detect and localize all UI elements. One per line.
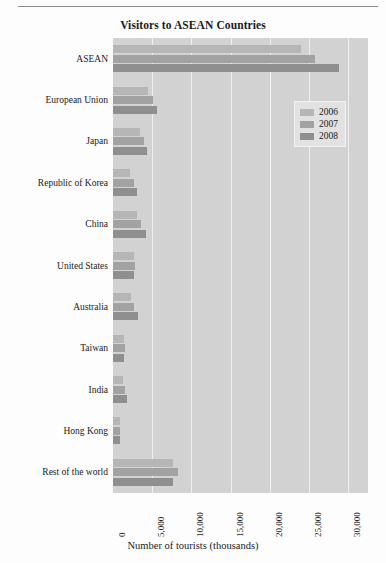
bar-group bbox=[113, 417, 368, 444]
legend-swatch-icon bbox=[300, 109, 314, 116]
legend-label: 2007 bbox=[319, 118, 338, 130]
category-label: Taiwan bbox=[0, 343, 108, 353]
bar bbox=[113, 45, 301, 53]
bar bbox=[113, 106, 157, 114]
bar bbox=[113, 220, 141, 228]
x-tick-label: 30,000 bbox=[352, 512, 362, 537]
bar bbox=[113, 303, 134, 311]
category-label: European Union bbox=[0, 95, 108, 105]
x-tick-label: 10,000 bbox=[195, 512, 205, 537]
x-tick-label: 20,000 bbox=[274, 512, 284, 537]
category-label: India bbox=[0, 385, 108, 395]
bar bbox=[113, 417, 120, 425]
bar-group bbox=[113, 459, 368, 486]
bar-group bbox=[113, 252, 368, 279]
legend-label: 2008 bbox=[319, 130, 338, 142]
bar bbox=[113, 64, 339, 72]
bar-group bbox=[113, 169, 368, 196]
bar bbox=[113, 376, 123, 384]
bar-group bbox=[113, 45, 368, 72]
bar bbox=[113, 188, 137, 196]
category-label: United States bbox=[0, 261, 108, 271]
bar bbox=[113, 312, 138, 320]
category-label: Japan bbox=[0, 136, 108, 146]
category-label: Rest of the world bbox=[0, 467, 108, 477]
category-label: Australia bbox=[0, 302, 108, 312]
category-label: ASEAN bbox=[0, 54, 108, 64]
bar bbox=[113, 262, 135, 270]
category-label: Republic of Korea bbox=[0, 178, 108, 188]
chart-page: Visitors to ASEAN Countries ASEANEuropea… bbox=[0, 0, 386, 563]
bar bbox=[113, 55, 315, 63]
bar bbox=[113, 436, 120, 444]
bar-group bbox=[113, 211, 368, 238]
category-label: China bbox=[0, 219, 108, 229]
bar bbox=[113, 459, 173, 467]
legend-swatch-icon bbox=[300, 133, 314, 140]
bar bbox=[113, 179, 134, 187]
bar bbox=[113, 252, 134, 260]
bar bbox=[113, 335, 124, 343]
bar bbox=[113, 211, 137, 219]
bar bbox=[113, 427, 120, 435]
legend-item: 2007 bbox=[300, 118, 338, 130]
bar bbox=[113, 478, 173, 486]
legend-label: 2006 bbox=[319, 106, 338, 118]
bar bbox=[113, 96, 153, 104]
bar-group bbox=[113, 335, 368, 362]
bar bbox=[113, 395, 127, 403]
category-axis-labels: ASEANEuropean UnionJapanRepublic of Kore… bbox=[0, 38, 108, 493]
x-tick-label: 15,000 bbox=[235, 512, 245, 537]
chart-legend: 200620072008 bbox=[294, 101, 346, 147]
bar-group bbox=[113, 293, 368, 320]
legend-item: 2006 bbox=[300, 106, 338, 118]
x-tick-label: 5,000 bbox=[156, 517, 166, 537]
bar bbox=[113, 87, 148, 95]
header-divider bbox=[18, 6, 378, 7]
bar bbox=[113, 354, 124, 362]
chart-title: Visitors to ASEAN Countries bbox=[0, 19, 386, 31]
x-tick-label: 0 bbox=[117, 533, 127, 538]
bar bbox=[113, 271, 134, 279]
bar bbox=[113, 293, 131, 301]
bar bbox=[113, 137, 144, 145]
bar bbox=[113, 230, 146, 238]
bar bbox=[113, 468, 178, 476]
bar bbox=[113, 169, 130, 177]
legend-item: 2008 bbox=[300, 130, 338, 142]
x-axis-title: Number of tourists (thousands) bbox=[0, 540, 386, 551]
x-tick-label: 25,000 bbox=[313, 512, 323, 537]
bar bbox=[113, 386, 125, 394]
bar-group bbox=[113, 376, 368, 403]
category-label: Hong Kong bbox=[0, 426, 108, 436]
bar bbox=[113, 128, 140, 136]
legend-swatch-icon bbox=[300, 121, 314, 128]
bar bbox=[113, 344, 125, 352]
bar bbox=[113, 147, 147, 155]
